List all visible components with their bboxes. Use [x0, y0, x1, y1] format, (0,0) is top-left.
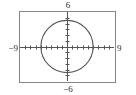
y-min-label: −6	[0, 84, 136, 94]
plot-frame	[19, 11, 116, 83]
plot-svg	[20, 12, 114, 81]
x-min-label: −9	[0, 43, 18, 53]
plot-area	[20, 12, 115, 82]
graphing-window-figure: 6 −9 9 −6	[0, 0, 136, 95]
x-max-label: 9	[117, 43, 135, 53]
y-axis	[66, 12, 70, 81]
y-max-label: 6	[0, 0, 136, 10]
